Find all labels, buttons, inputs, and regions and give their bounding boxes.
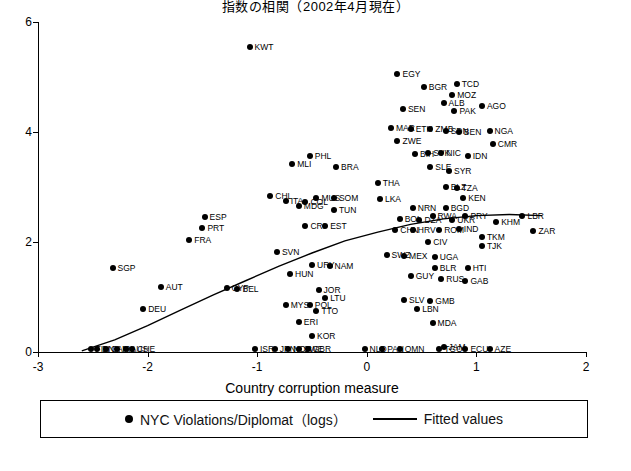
data-point-label: BLR bbox=[440, 264, 457, 273]
data-point bbox=[202, 214, 208, 220]
chart-legend: NYC Violations/Diplomat（logs） Fitted val… bbox=[40, 400, 588, 438]
data-point-label: PAK bbox=[459, 107, 475, 116]
data-point-label: OMN bbox=[405, 344, 425, 353]
data-point-label: UGA bbox=[440, 253, 458, 262]
data-point-label: PRT bbox=[207, 223, 224, 232]
data-point-label: LBR bbox=[527, 211, 544, 220]
data-point bbox=[283, 302, 289, 308]
data-point bbox=[110, 265, 116, 271]
data-point bbox=[456, 129, 462, 135]
data-point-label: NGA bbox=[495, 127, 513, 136]
data-point bbox=[443, 128, 449, 134]
data-point bbox=[274, 249, 280, 255]
data-point-label: HTI bbox=[473, 264, 487, 273]
data-point-label: TTO bbox=[321, 307, 338, 316]
data-point-label: SGP bbox=[118, 264, 136, 273]
data-point-label: NIC bbox=[446, 149, 461, 158]
data-point bbox=[114, 346, 120, 352]
data-point-label: MDA bbox=[438, 319, 457, 328]
data-point bbox=[302, 223, 308, 229]
legend-label-scatter: NYC Violations/Diplomat（logs） bbox=[140, 409, 347, 429]
data-point bbox=[252, 346, 258, 352]
data-point bbox=[94, 346, 100, 352]
data-point bbox=[327, 263, 333, 269]
data-point-label: CIV bbox=[433, 238, 447, 247]
data-point-label: FRA bbox=[194, 236, 211, 245]
data-point-label: SEN bbox=[408, 105, 425, 114]
data-point bbox=[307, 302, 313, 308]
data-point bbox=[479, 103, 485, 109]
data-point bbox=[377, 196, 383, 202]
data-point bbox=[436, 227, 442, 233]
data-point bbox=[408, 126, 414, 132]
data-point bbox=[487, 128, 493, 134]
data-point-label: TUN bbox=[339, 206, 356, 215]
data-point-label: LBN bbox=[422, 305, 439, 314]
data-point-label: BEN bbox=[464, 128, 481, 137]
data-point bbox=[487, 346, 493, 352]
data-point-label: TCD bbox=[462, 79, 479, 88]
data-point bbox=[456, 226, 462, 232]
data-point bbox=[388, 125, 394, 131]
legend-item-fitted: Fitted values bbox=[373, 411, 503, 427]
x-tick-label: 2 bbox=[571, 360, 601, 374]
data-point-label: TGO bbox=[444, 344, 462, 353]
data-point bbox=[490, 141, 496, 147]
x-tick-label: -3 bbox=[23, 360, 53, 374]
data-point bbox=[441, 100, 447, 106]
data-point bbox=[454, 81, 460, 87]
data-point bbox=[465, 153, 471, 159]
data-point-label: CHE bbox=[137, 344, 155, 353]
data-point bbox=[331, 195, 337, 201]
data-point bbox=[430, 320, 436, 326]
data-point bbox=[272, 346, 278, 352]
data-point bbox=[397, 216, 403, 222]
y-tick-mark bbox=[33, 132, 38, 133]
data-point bbox=[123, 346, 129, 352]
data-point bbox=[129, 346, 135, 352]
data-point-label: MDG bbox=[304, 201, 324, 210]
data-point bbox=[408, 273, 414, 279]
data-point bbox=[397, 346, 403, 352]
data-point bbox=[322, 223, 328, 229]
data-point-label: PHL bbox=[315, 152, 332, 161]
x-tick-mark bbox=[38, 352, 39, 357]
data-point bbox=[375, 180, 381, 186]
data-point-label: BEL bbox=[242, 285, 258, 294]
data-point-label: BRA bbox=[341, 163, 358, 172]
data-point bbox=[436, 346, 442, 352]
plot-area: 0246 -3-2-1012 KWTEGYBGRTCDMOZALBSENPAKA… bbox=[38, 22, 586, 352]
x-tick-label: 0 bbox=[352, 360, 382, 374]
data-point-label: TKM bbox=[487, 232, 505, 241]
data-point-label: GAB bbox=[470, 276, 488, 285]
data-point-label: BGR bbox=[429, 83, 447, 92]
data-point bbox=[479, 234, 485, 240]
data-point bbox=[410, 227, 416, 233]
y-tick-mark bbox=[33, 22, 38, 23]
data-point bbox=[158, 284, 164, 290]
data-point-label: EST bbox=[330, 221, 347, 230]
data-point bbox=[283, 198, 289, 204]
x-axis-label: Country corruption measure bbox=[38, 380, 586, 396]
data-point-label: THA bbox=[383, 178, 400, 187]
data-point-label: SYR bbox=[454, 166, 471, 175]
data-point bbox=[421, 84, 427, 90]
data-point bbox=[384, 252, 390, 258]
data-point-label: MLI bbox=[297, 160, 311, 169]
data-point bbox=[400, 106, 406, 112]
y-tick-label: 4 bbox=[14, 127, 32, 137]
data-point bbox=[309, 333, 315, 339]
data-point-label: NAM bbox=[335, 262, 354, 271]
y-tick-mark bbox=[33, 242, 38, 243]
x-tick-mark bbox=[257, 352, 258, 357]
data-point-label: GBR bbox=[313, 344, 331, 353]
y-tick-label: 2 bbox=[14, 237, 32, 247]
data-point-label: TJK bbox=[487, 242, 502, 251]
data-point-label: DEU bbox=[148, 305, 166, 314]
data-point-label: HUN bbox=[295, 270, 313, 279]
legend-dot-icon bbox=[125, 415, 133, 423]
data-point bbox=[186, 237, 192, 243]
legend-item-scatter: NYC Violations/Diplomat（logs） bbox=[125, 409, 347, 429]
data-point-label: SOM bbox=[339, 194, 358, 203]
x-tick-label: -2 bbox=[133, 360, 163, 374]
